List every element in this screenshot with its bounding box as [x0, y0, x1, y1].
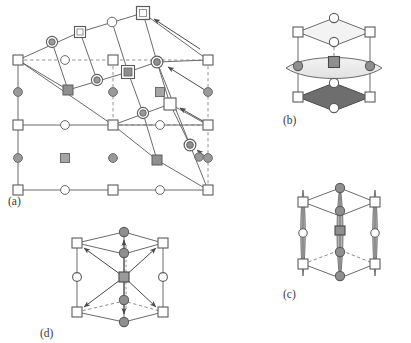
gray-circle — [365, 61, 374, 70]
open-square — [158, 238, 168, 248]
open-square — [365, 92, 375, 102]
open-square — [370, 259, 380, 269]
open-circle — [159, 273, 168, 282]
open-circle — [329, 37, 338, 46]
bullseye-circle — [184, 139, 196, 151]
ringed-square — [164, 98, 176, 110]
open-circle — [61, 186, 70, 195]
bullseye-circle — [151, 56, 163, 68]
gray-circle — [119, 317, 128, 326]
crystal-structure-diagram: (a) (b) — [0, 0, 411, 343]
gray-circle — [119, 248, 128, 257]
open-square — [158, 307, 168, 317]
gray-circle — [204, 154, 213, 163]
gray-square — [156, 88, 165, 97]
open-circle — [61, 56, 70, 65]
open-circle — [299, 229, 307, 237]
bullseye-circle — [137, 107, 148, 118]
panel-label-c: (c) — [283, 288, 296, 301]
open-circle — [371, 229, 379, 237]
gray-circle — [293, 61, 302, 70]
gray-circle — [109, 88, 118, 97]
gray-circle — [335, 271, 344, 280]
open-square — [203, 55, 213, 65]
gray-circle — [14, 88, 23, 97]
gray-square — [329, 57, 340, 68]
bullseye-circle — [195, 153, 203, 161]
open-circle — [156, 186, 165, 195]
gray-square — [119, 272, 129, 282]
panel-label-d: (d) — [40, 327, 54, 340]
open-square — [365, 27, 375, 37]
open-square — [108, 55, 118, 65]
panel-label-a: (a) — [8, 195, 21, 208]
open-square — [13, 55, 23, 65]
gray-circle — [335, 206, 344, 215]
panel-label-b: (b) — [283, 114, 297, 127]
open-square — [137, 7, 150, 20]
gray-square — [63, 85, 73, 95]
gray-circle — [14, 154, 23, 163]
open-square — [298, 259, 308, 269]
open-square — [75, 27, 86, 38]
gray-circle — [119, 295, 128, 304]
open-square — [108, 185, 118, 195]
gray-square — [152, 155, 162, 165]
open-square — [370, 197, 380, 207]
open-circle — [329, 78, 338, 87]
open-square — [203, 120, 213, 130]
open-square — [72, 238, 82, 248]
open-square — [13, 120, 23, 130]
open-circle — [107, 17, 117, 27]
open-circle — [156, 121, 165, 130]
gray-circle — [335, 247, 344, 256]
figure-container: (a) (b) — [0, 0, 411, 343]
open-square — [293, 27, 303, 37]
open-circle — [329, 13, 338, 22]
open-circle — [73, 273, 82, 282]
bullseye-circle — [46, 36, 57, 47]
open-square — [13, 185, 23, 195]
gray-circle — [109, 154, 118, 163]
gray-circle — [204, 88, 213, 97]
open-square — [72, 307, 82, 317]
open-square — [108, 120, 118, 130]
bullseye-circle — [91, 74, 102, 85]
gray-circle — [335, 183, 344, 192]
gray-square — [61, 154, 70, 163]
open-square — [203, 185, 213, 195]
figure-background — [0, 0, 411, 343]
ringed-square — [122, 66, 135, 79]
open-circle — [329, 103, 338, 112]
open-square — [298, 197, 308, 207]
gray-circle — [119, 227, 128, 236]
open-square — [293, 92, 303, 102]
gray-square — [335, 226, 345, 235]
open-circle — [61, 121, 70, 130]
